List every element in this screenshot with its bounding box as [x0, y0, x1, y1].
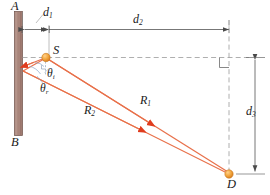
label-dimension-d3: d3: [246, 105, 256, 118]
label-angle-theta-i-sub: i: [53, 73, 55, 81]
label-dimension-d2-sub: 2: [139, 18, 143, 27]
optics-ray-diagram-figure: A B S D d1 d2 d3 R1 R2 θi θr: [0, 0, 270, 195]
label-ray-r2-sub: 2: [91, 109, 95, 118]
label-dimension-d1: d1: [43, 6, 53, 19]
label-ray-r2: R2: [84, 104, 95, 117]
label-point-b: B: [11, 136, 19, 149]
label-dimension-d2: d2: [133, 13, 143, 26]
source-point-s: [42, 53, 50, 61]
ray-r2: [23, 71, 228, 174]
label-angle-theta-i: θi: [47, 68, 55, 81]
label-point-s: S: [53, 44, 59, 57]
label-ray-r1-sub: 1: [147, 99, 151, 108]
diagram-canvas: [0, 0, 270, 195]
ray-r1: [47, 59, 228, 173]
label-angle-theta-r-sub: r: [46, 88, 49, 96]
wall-mirror: [15, 12, 23, 136]
label-angle-theta-r: θr: [40, 83, 48, 96]
label-ray-r1: R1: [140, 94, 151, 107]
label-point-a: A: [11, 0, 19, 13]
label-dimension-d1-sub: 1: [49, 11, 53, 20]
label-dimension-d3-sub: 3: [252, 110, 256, 119]
right-angle-marker: [220, 58, 230, 68]
label-point-d: D: [227, 178, 236, 191]
